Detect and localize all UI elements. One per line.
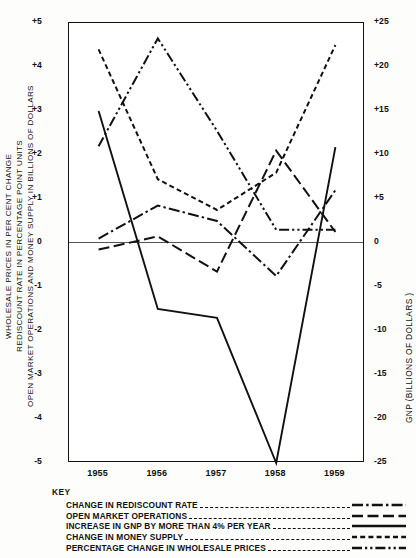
right-tick-label: +10 <box>374 148 404 158</box>
legend-leader-dots <box>185 532 350 540</box>
left-tick-label: +4 <box>16 60 42 70</box>
legend-line-swatch <box>352 522 406 530</box>
legend-leader-dots <box>268 543 350 551</box>
legend-item-label: PERCENTAGE CHANGE IN WHOLESALE PRICES <box>66 543 266 553</box>
legend-item-label: OPEN MARKET OPERATIONS <box>66 511 187 521</box>
left-tick-label: -4 <box>16 412 42 422</box>
right-tick-label: -5 <box>374 280 404 290</box>
left-tick-label: -5 <box>16 456 42 466</box>
legend-item[interactable]: PERCENTAGE CHANGE IN WHOLESALE PRICES <box>66 542 406 553</box>
right-axis-title: GNP (BILLIONS OF DOLLARS ) <box>404 250 415 465</box>
legend-item[interactable]: CHANGE IN REDISCOUNT RATE <box>66 500 406 511</box>
legend-line-swatch <box>352 512 406 520</box>
series-line <box>99 45 336 210</box>
right-tick-label: 0 <box>374 236 404 246</box>
legend-line-swatch <box>352 501 406 509</box>
right-tick-label: +25 <box>374 16 404 26</box>
x-tick-label: 1956 <box>134 468 180 478</box>
left-tick-label: +3 <box>16 104 42 114</box>
series-line <box>99 111 336 463</box>
right-tick-label: -25 <box>374 456 404 466</box>
series-line <box>99 38 336 229</box>
left-tick-label: -3 <box>16 368 42 378</box>
left-axis-title: WHOLESALE PRICES IN PER CENT CHANGE REDI… <box>3 36 36 456</box>
left-tick-label: +5 <box>16 16 42 26</box>
right-tick-label: -20 <box>374 412 404 422</box>
right-tick-label: -10 <box>374 324 404 334</box>
left-tick-label: -2 <box>16 324 42 334</box>
legend-item-label: INCREASE IN GNP BY MORE THAN 4% PER YEAR <box>66 521 271 531</box>
legend-title: KEY <box>52 487 70 497</box>
right-tick-label: +5 <box>374 192 404 202</box>
legend-leader-dots <box>189 511 350 519</box>
left-tick-label: +1 <box>16 192 42 202</box>
legend-item[interactable]: OPEN MARKET OPERATIONS <box>66 511 406 522</box>
left-tick-label: -1 <box>16 280 42 290</box>
legend-item-label: CHANGE IN MONEY SUPPLY <box>66 532 183 542</box>
chart-figure: WHOLESALE PRICES IN PER CENT CHANGE REDI… <box>0 0 416 558</box>
legend-line-swatch <box>352 533 406 541</box>
x-tick-label: 1958 <box>252 468 298 478</box>
right-tick-label: -15 <box>374 368 404 378</box>
x-tick-label: 1955 <box>75 468 121 478</box>
legend: CHANGE IN REDISCOUNT RATEOPEN MARKET OPE… <box>66 500 406 553</box>
legend-item[interactable]: INCREASE IN GNP BY MORE THAN 4% PER YEAR <box>66 521 406 532</box>
x-tick-label: 1959 <box>311 468 357 478</box>
legend-item-label: CHANGE IN REDISCOUNT RATE <box>66 500 198 510</box>
legend-leader-dots <box>200 500 350 508</box>
x-tick-label: 1957 <box>193 468 239 478</box>
left-tick-label: 0 <box>16 236 42 246</box>
legend-leader-dots <box>273 521 350 529</box>
legend-item[interactable]: CHANGE IN MONEY SUPPLY <box>66 532 406 543</box>
right-tick-label: +15 <box>374 104 404 114</box>
plot-area <box>68 22 364 462</box>
right-tick-label: +20 <box>374 60 404 70</box>
legend-line-swatch <box>352 544 406 552</box>
left-tick-label: +2 <box>16 148 42 158</box>
series-lines <box>69 23 365 463</box>
